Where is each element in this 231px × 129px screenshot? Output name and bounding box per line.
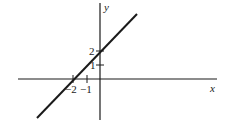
function-line [37,14,137,118]
x-tick-label-minus-1: −1 [80,83,92,95]
y-tick-label-1: 1 [90,59,96,71]
x-axis-label: x [209,82,215,94]
x-tick-label-minus-2: −2 [65,83,77,95]
graph-canvas: y x 2 1 −2 −1 [0,0,231,129]
y-axis-label: y [103,1,109,13]
y-tick-label-2: 2 [89,45,95,57]
